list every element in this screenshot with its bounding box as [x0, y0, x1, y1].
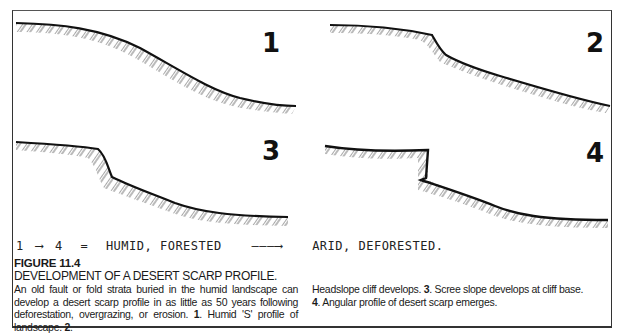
caption-column-right: Headslope cliff develops. 3. Scree slope… — [312, 283, 610, 333]
panel-1-number: 1 — [262, 28, 280, 58]
arrow-right-icon: ⟶ — [35, 239, 43, 253]
panel-3: 3 — [16, 136, 288, 226]
panel-2: 2 — [330, 25, 610, 113]
panel-4: 4 — [325, 138, 608, 228]
panel-4-number: 4 — [586, 138, 604, 168]
handwritten-transition-note: 1 ⟶ 4 = HUMID, FORESTED ———⟶ ARID, DEFOR… — [16, 239, 443, 253]
note-start: 1 — [16, 239, 24, 253]
arrow-right-long-icon: ———⟶ — [251, 239, 282, 253]
item-3-text: . Scree slope develops at cliff base. — [429, 283, 583, 295]
figure-title: DEVELOPMENT OF A DESERT SCARP PROFILE. — [14, 270, 610, 283]
item-2-text: Headslope cliff develops. — [312, 283, 424, 295]
panel-1: 1 — [16, 23, 296, 114]
note-to-state: ARID, DEFORESTED. — [312, 239, 443, 253]
figure-caption: FIGURE 11.4 DEVELOPMENT OF A DESERT SCAR… — [14, 257, 610, 333]
item-2-punct: . — [70, 321, 73, 333]
scarp-profiles-drawing: 1 2 3 4 — [0, 0, 623, 260]
item-4-text: . Angular profile of desert scarp emerge… — [318, 296, 497, 308]
note-equals: = — [80, 239, 88, 253]
panel-2-number: 2 — [586, 28, 604, 58]
note-end: 4 — [55, 239, 63, 253]
panel-3-number: 3 — [262, 136, 280, 166]
caption-column-left: An old fault or fold strata buried in th… — [14, 283, 298, 333]
note-from-state: HUMID, FORESTED — [106, 239, 222, 253]
